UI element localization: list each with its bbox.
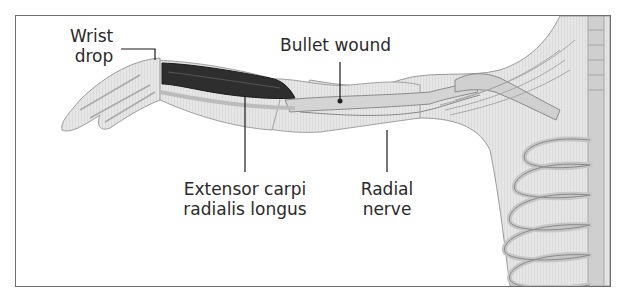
label-wrist-drop: Wrist drop xyxy=(70,26,113,66)
label-bullet-wound: Bullet wound xyxy=(280,35,391,55)
bullet-wound-marker xyxy=(338,99,343,104)
label-extensor-line2: radialis longus xyxy=(180,199,310,219)
spine xyxy=(588,16,604,286)
label-wrist-drop-line2: drop xyxy=(70,46,113,66)
label-extensor-line1: Extensor carpi xyxy=(180,179,310,199)
label-wrist-drop-line1: Wrist xyxy=(70,26,113,46)
hand xyxy=(62,58,160,131)
label-radial-nerve-line1: Radial xyxy=(352,179,422,199)
wrist-drop-leader xyxy=(121,49,155,60)
label-extensor-carpi-radialis-longus: Extensor carpi radialis longus xyxy=(180,179,310,219)
label-radial-nerve: Radial nerve xyxy=(352,179,422,219)
label-radial-nerve-line2: nerve xyxy=(352,199,422,219)
torso-silhouette xyxy=(300,16,610,286)
